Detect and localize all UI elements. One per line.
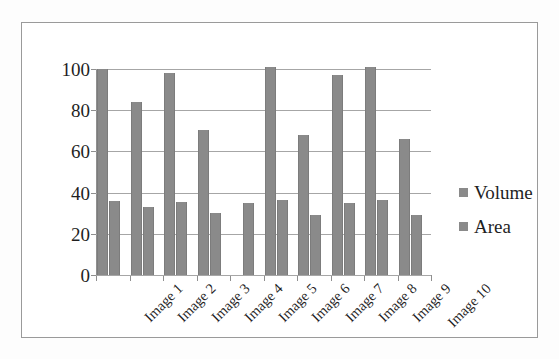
- bar-group: [197, 69, 231, 275]
- figure-frame: 100806040200 Image 1Image 2Image 3Image …: [21, 22, 538, 338]
- chart-legend: Volume Area: [459, 175, 555, 243]
- y-tick-0: [91, 275, 96, 276]
- bar-area[interactable]: [109, 201, 120, 275]
- bar-volume[interactable]: [131, 102, 142, 275]
- legend-label-volume: Volume: [474, 183, 533, 202]
- bar-area[interactable]: [277, 200, 288, 275]
- chart-figure: 100806040200 Image 1Image 2Image 3Image …: [0, 0, 559, 359]
- bar-group: [163, 69, 197, 275]
- bar-volume[interactable]: [298, 135, 309, 275]
- bar-group: [230, 69, 264, 275]
- legend-swatch-volume: [459, 188, 468, 197]
- bar-group: [96, 69, 130, 275]
- bar-group: [297, 69, 331, 275]
- bar-group: [364, 69, 398, 275]
- bar-area[interactable]: [377, 200, 388, 275]
- legend-item-area[interactable]: Area: [459, 209, 555, 243]
- bar-volume[interactable]: [265, 67, 276, 275]
- bar-area[interactable]: [243, 203, 254, 275]
- bar-area[interactable]: [344, 203, 355, 275]
- bar-volume[interactable]: [399, 139, 410, 275]
- bar-volume[interactable]: [365, 67, 376, 275]
- x-axis-category-labels: Image 1Image 2Image 3Image 4Image 5Image…: [96, 281, 432, 341]
- x-axis-label-10: Image 10: [445, 281, 494, 330]
- bar-group: [130, 69, 164, 275]
- y-axis-label-80: 80: [46, 101, 90, 120]
- y-axis-label-100: 100: [46, 60, 90, 79]
- legend-label-area: Area: [474, 217, 511, 236]
- bar-area[interactable]: [176, 202, 187, 275]
- bar-group: [331, 69, 365, 275]
- plot-area: [96, 69, 431, 275]
- gridline-0: [96, 275, 431, 276]
- y-axis-label-0: 0: [46, 266, 90, 285]
- y-axis-label-60: 60: [46, 142, 90, 161]
- bar-group: [398, 69, 432, 275]
- bar-volume[interactable]: [164, 73, 175, 275]
- bar-volume[interactable]: [332, 75, 343, 275]
- y-axis-label-40: 40: [46, 184, 90, 203]
- bar-volume[interactable]: [97, 69, 108, 275]
- legend-item-volume[interactable]: Volume: [459, 175, 555, 209]
- bar-area[interactable]: [143, 207, 154, 275]
- legend-swatch-area: [459, 222, 468, 231]
- bar-area[interactable]: [310, 215, 321, 275]
- bar-group: [264, 69, 298, 275]
- y-axis-labels: 100806040200: [44, 69, 90, 275]
- bar-area[interactable]: [411, 215, 422, 275]
- y-axis-label-20: 20: [46, 225, 90, 244]
- bar-volume[interactable]: [198, 130, 209, 275]
- bar-area[interactable]: [210, 213, 221, 275]
